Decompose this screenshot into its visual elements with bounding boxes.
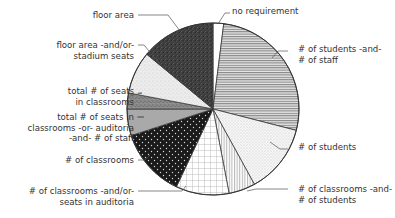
label-students-and-staff: # of students -and- # of staff <box>298 44 381 65</box>
label-seats-or-auditoria-and-staff: total # of seats in classrooms -or- audi… <box>28 112 134 144</box>
pie-slices <box>127 23 299 195</box>
label-seats-in-classrooms: total # of seats in classrooms <box>68 86 134 107</box>
label-classrooms-or-auditoria: # of classrooms -and/or- seats in audito… <box>29 186 134 207</box>
label-floor-area: floor area <box>93 10 134 21</box>
label-classrooms-and-students: # of classrooms -and- # of students <box>298 184 392 205</box>
label-floor-area-or-stadium: floor area -and/or- stadium seats <box>56 40 134 61</box>
label-students: # of students <box>298 142 356 153</box>
label-no-requirement: no requirement <box>232 6 298 17</box>
label-classrooms: # of classrooms <box>65 155 134 166</box>
